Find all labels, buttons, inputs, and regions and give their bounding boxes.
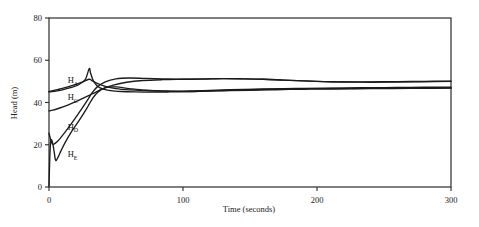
x-tick-label: 200 xyxy=(311,195,324,205)
y-tick-label: 0 xyxy=(38,182,42,192)
y-tick-label: 20 xyxy=(34,140,43,150)
curve-label-subscript: D xyxy=(74,127,79,133)
y-tick-label: 80 xyxy=(34,13,43,23)
x-tick-label: 100 xyxy=(177,195,190,205)
x-tick-label: 300 xyxy=(445,195,458,205)
y-tick-label: 40 xyxy=(34,98,43,108)
chart-background xyxy=(0,0,479,227)
x-tick-label: 0 xyxy=(47,195,51,205)
y-tick-label: 60 xyxy=(34,55,43,65)
y-axis-title: Head (m) xyxy=(9,87,19,120)
curve-label-subscript: A xyxy=(74,81,79,87)
x-axis-title: Time (seconds) xyxy=(223,204,276,214)
figure-container: 020406080 0100200300 HAHCHDHE Time (seco… xyxy=(0,0,479,227)
line-chart: 020406080 0100200300 HAHCHDHE Time (seco… xyxy=(0,0,479,227)
curve-label-subscript: C xyxy=(74,98,78,104)
curve-label-subscript: E xyxy=(74,155,78,161)
